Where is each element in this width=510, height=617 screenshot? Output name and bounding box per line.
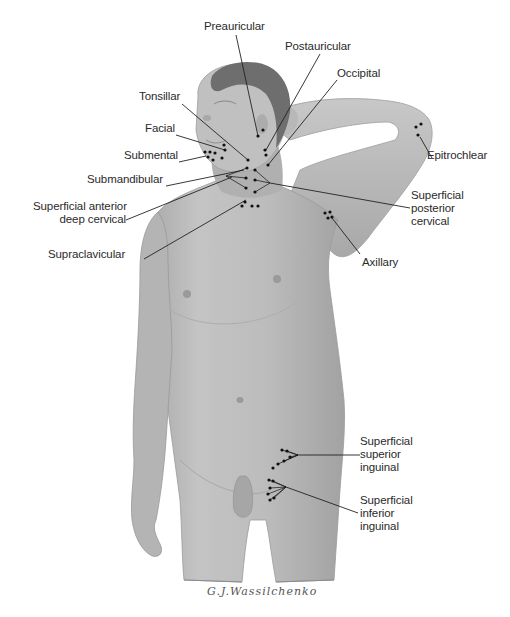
label-line: posterior xyxy=(411,202,464,215)
lymph-node-diagram: Preauricular Postauricular Occipital Ton… xyxy=(0,0,510,617)
label-line: superior xyxy=(360,448,413,461)
torso xyxy=(149,180,345,582)
label-occipital: Occipital xyxy=(337,67,380,80)
label-line: inguinal xyxy=(360,520,413,533)
artist-signature: G.J.Wassilchenko xyxy=(207,585,317,598)
label-superficial-superior-inguinal: Superficial superior inguinal xyxy=(360,435,413,474)
label-line: Superficial xyxy=(360,494,413,507)
hanging-arm xyxy=(131,212,172,556)
label-axillary: Axillary xyxy=(362,256,398,269)
label-line: inferior xyxy=(360,507,413,520)
label-superficial-anterior-deep-cervical: Superficial anterior deep cervical xyxy=(33,200,126,226)
body-illustration xyxy=(0,0,510,617)
label-submental: Submental xyxy=(124,149,178,162)
label-preauricular: Preauricular xyxy=(204,20,265,33)
label-line: Superficial xyxy=(411,189,464,202)
label-line: Superficial xyxy=(360,435,413,448)
label-line: Superficial anterior xyxy=(33,200,126,213)
label-line: deep cervical xyxy=(33,213,126,226)
label-superficial-posterior-cervical: Superficial posterior cervical xyxy=(411,189,464,228)
label-tonsillar: Tonsillar xyxy=(139,90,180,103)
label-line: inguinal xyxy=(360,461,413,474)
label-superficial-inferior-inguinal: Superficial inferior inguinal xyxy=(360,494,413,533)
label-facial: Facial xyxy=(145,122,175,135)
label-submandibular: Submandibular xyxy=(87,173,163,186)
label-epitrochlear: Epitrochlear xyxy=(427,149,487,162)
label-line: cervical xyxy=(411,215,464,228)
label-postauricular: Postauricular xyxy=(285,40,351,53)
label-supraclavicular: Supraclavicular xyxy=(48,248,125,261)
